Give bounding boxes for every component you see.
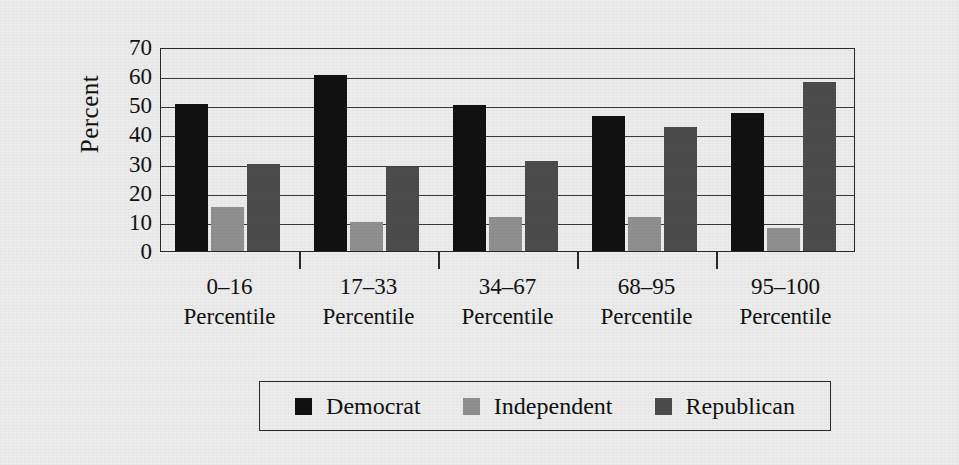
gridline (161, 107, 854, 108)
bar-republican (664, 127, 697, 251)
x-axis-range-text: 95–100 (691, 272, 881, 302)
bar-republican (525, 161, 558, 251)
y-axis-title: Percent (76, 54, 104, 174)
legend-swatch-independent-icon (463, 398, 480, 415)
bar-republican (803, 82, 836, 251)
bar-democrat (175, 104, 208, 251)
y-axis-tick-label: 20 (106, 182, 152, 205)
bar-independent (628, 217, 661, 251)
y-axis-tick-label: 0 (106, 240, 152, 263)
x-axis-unit-text: Percentile (691, 302, 881, 332)
group-separator-tick (438, 252, 440, 269)
bar-democrat (592, 116, 625, 252)
bar-democrat (731, 113, 764, 251)
y-axis-tick-label: 60 (106, 65, 152, 88)
legend-label: Independent (494, 393, 613, 420)
gridline (161, 78, 854, 79)
bar-independent (350, 222, 383, 251)
y-axis-tick-label: 30 (106, 153, 152, 176)
bar-independent (767, 228, 800, 251)
bar-independent (489, 217, 522, 251)
group-separator-tick (716, 252, 718, 269)
legend-swatch-republican-icon (655, 398, 672, 415)
bar-independent (211, 207, 244, 251)
y-axis-tick-label: 50 (106, 94, 152, 117)
group-separator-tick (577, 252, 579, 269)
plot-area (160, 48, 855, 252)
bar-republican (247, 164, 280, 251)
bar-democrat (453, 105, 486, 251)
y-axis-tick-label: 70 (106, 36, 152, 59)
y-axis-tick-label: 40 (106, 123, 152, 146)
legend-label: Republican (686, 393, 795, 420)
y-axis-tick-label: 10 (106, 211, 152, 234)
legend-item-republican[interactable]: Republican (655, 393, 795, 420)
bar-republican (386, 167, 419, 251)
legend-item-independent[interactable]: Independent (463, 393, 613, 420)
legend-item-democrat[interactable]: Democrat (295, 393, 421, 420)
legend-swatch-democrat-icon (295, 398, 312, 415)
bar-democrat (314, 75, 347, 251)
group-separator-tick (299, 252, 301, 269)
legend-label: Democrat (326, 393, 421, 420)
bar-chart-figure: Percent 010203040506070 0–16Percentile17… (0, 0, 959, 465)
x-axis-category-label: 95–100Percentile (691, 272, 881, 333)
chart-legend: DemocratIndependentRepublican (259, 381, 831, 431)
